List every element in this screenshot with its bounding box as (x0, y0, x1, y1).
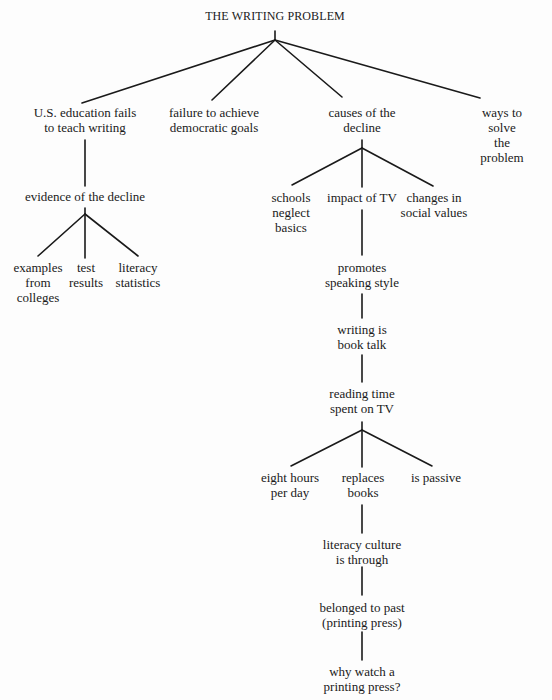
node-printing-press: why watch a printing press? (324, 664, 401, 694)
node-book-talk: writing is book talk (337, 322, 386, 352)
node-social-values: changes in social values (401, 190, 468, 220)
edge-causes-schools (292, 148, 362, 185)
edge-evidence-literacy (85, 214, 138, 256)
edge-reading-eight (291, 430, 362, 466)
edge-root-education (82, 40, 275, 103)
node-eight-hours: eight hours per day (261, 470, 319, 500)
node-root: THE WRITING PROBLEM (205, 9, 345, 24)
node-examples: examples from colleges (13, 260, 62, 305)
edge-reading-passive (362, 430, 432, 466)
edge-root-causes (275, 40, 342, 97)
node-impact-tv: impact of TV (327, 190, 397, 205)
node-evidence: evidence of the decline (25, 189, 145, 204)
node-test-results: test results (69, 260, 103, 290)
node-schools-neglect: schools neglect basics (272, 190, 311, 235)
edge-causes-social (362, 148, 433, 186)
edge-evidence-examples (38, 214, 85, 256)
edge-root-ways (275, 40, 480, 98)
node-causes: causes of the decline (328, 105, 395, 135)
node-belonged-past: belonged to past (printing press) (319, 600, 404, 630)
node-replaces-books: replaces books (342, 470, 385, 500)
node-literacy-culture: literacy culture is through (323, 537, 401, 567)
node-ways-to-solve: ways to solve the problem (477, 105, 527, 165)
node-literacy-stats: literacy statistics (116, 260, 161, 290)
node-reading-time: reading time spent on TV (329, 386, 394, 416)
node-is-passive: is passive (411, 470, 461, 485)
edge-root-democratic (212, 40, 275, 100)
node-speaking-style: promotes speaking style (325, 260, 399, 290)
node-democratic-goals: failure to achieve democratic goals (169, 105, 259, 135)
node-education-fails: U.S. education fails to teach writing (34, 105, 137, 135)
